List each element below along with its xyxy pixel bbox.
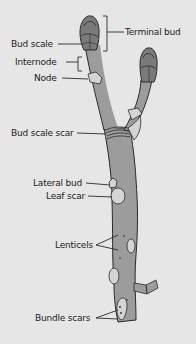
terminal-bud	[80, 16, 99, 50]
lenticel	[109, 268, 119, 284]
leaf-scar	[111, 188, 125, 204]
label-node: Node	[34, 73, 57, 83]
label-bundle-scars: Bundle scars	[35, 313, 90, 323]
twig-illustration	[0, 0, 196, 344]
label-terminal-bud: Terminal bud	[125, 27, 181, 37]
label-bud-scale: Bud scale	[11, 39, 53, 49]
lenticel	[127, 239, 135, 253]
twig-diagram: Terminal bud Bud scale Internode Node Bu…	[0, 0, 196, 344]
label-lateral-bud: Lateral bud	[33, 178, 82, 188]
label-leaf-scar: Leaf scar	[46, 191, 85, 201]
label-internode: Internode	[15, 57, 57, 67]
label-lenticels: Lenticels	[55, 240, 93, 250]
main-stem	[104, 128, 138, 322]
lateral-branch-bud	[140, 48, 157, 82]
label-bud-scale-scar: Bud scale scar	[11, 128, 74, 138]
